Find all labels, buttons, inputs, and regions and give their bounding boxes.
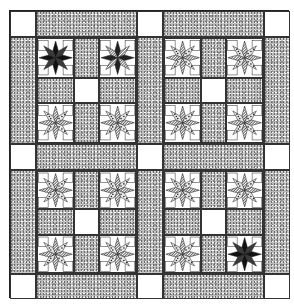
star-patch [164, 171, 201, 209]
striped-star-icon [38, 104, 73, 142]
striped-star-icon [38, 236, 73, 272]
striped-star-icon [100, 172, 135, 208]
star-patch [99, 103, 136, 143]
striped-star-icon [165, 104, 200, 142]
inner-sashing [201, 235, 226, 273]
inner-sashing [201, 103, 226, 143]
cornerstone [264, 11, 290, 37]
cornerstone [264, 144, 290, 170]
inner-cornerstone [74, 209, 99, 234]
inner-sashing [164, 209, 201, 234]
striped-star-icon [227, 172, 262, 208]
striped-star-icon [165, 236, 200, 272]
sashing-vertical [137, 37, 163, 144]
quilt [9, 10, 289, 298]
star-patch [37, 171, 74, 209]
inner-sashing [99, 209, 136, 234]
striped-star-icon [165, 39, 200, 77]
inner-sashing [164, 78, 201, 104]
cornerstone [137, 274, 163, 299]
star-patch [226, 103, 263, 143]
star-patch [37, 38, 74, 78]
striped-star-icon [100, 104, 135, 142]
sashing-vertical [10, 37, 36, 144]
star-patch [99, 171, 136, 209]
sashing-vertical [10, 170, 36, 274]
inner-cornerstone [74, 78, 99, 104]
inner-sashing [201, 171, 226, 209]
striped-star-icon [38, 172, 73, 208]
star-patch [37, 235, 74, 273]
sashing-horizontal [36, 144, 137, 170]
inner-sashing [74, 171, 99, 209]
inner-sashing [37, 78, 74, 104]
striped-star-icon [227, 104, 262, 142]
sashing-horizontal [163, 274, 264, 299]
star-block-top-right [163, 37, 264, 144]
inner-cornerstone [201, 78, 226, 104]
striped-star-icon [227, 39, 262, 77]
inner-sashing [74, 235, 99, 273]
star-patch [99, 38, 136, 78]
inner-sashing [201, 38, 226, 78]
star-patch [226, 38, 263, 78]
cornerstone [10, 144, 36, 170]
sashing-vertical [264, 37, 290, 144]
star-block-bottom-right [163, 170, 264, 274]
star-patch [164, 235, 201, 273]
inner-sashing [226, 209, 263, 234]
inner-cornerstone [201, 209, 226, 234]
dark-star-icon [227, 236, 262, 272]
cornerstone [10, 11, 36, 37]
sashing-horizontal [36, 274, 137, 299]
star-patch [164, 103, 201, 143]
sashing-vertical [137, 170, 163, 274]
inner-sashing [74, 38, 99, 78]
dark-star-icon [38, 39, 73, 77]
sashing-horizontal [163, 144, 264, 170]
striped-star-icon [165, 172, 200, 208]
star-block-bottom-left [36, 170, 137, 274]
sashing-vertical [264, 170, 290, 274]
star-patch [99, 235, 136, 273]
inner-sashing [99, 78, 136, 104]
cornerstone [137, 144, 163, 170]
sashing-horizontal [163, 11, 264, 37]
sashing-horizontal [36, 11, 137, 37]
star-patch [37, 103, 74, 143]
inner-sashing [226, 78, 263, 104]
inner-sashing [74, 103, 99, 143]
star-patch [164, 38, 201, 78]
star-block-top-left [36, 37, 137, 144]
star-patch [226, 235, 263, 273]
mixed-star-icon [100, 39, 135, 77]
striped-star-icon [100, 236, 135, 272]
cornerstone [137, 11, 163, 37]
cornerstone [264, 274, 290, 299]
star-patch [226, 171, 263, 209]
cornerstone [10, 274, 36, 299]
inner-sashing [37, 209, 74, 234]
